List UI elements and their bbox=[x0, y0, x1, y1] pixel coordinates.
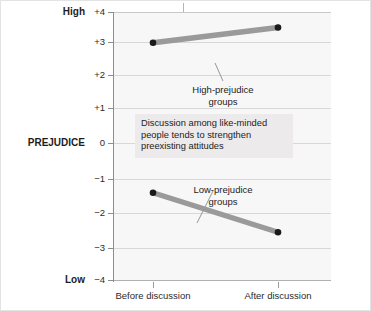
datapoint-high-after bbox=[275, 24, 282, 31]
leader-line-high bbox=[215, 63, 223, 81]
callout-line-1: Discussion among like-minded bbox=[141, 118, 287, 130]
series-label-high-line2: groups bbox=[208, 96, 237, 107]
series-label-low-line2: groups bbox=[208, 196, 237, 207]
figure-card: High+4 +3 +2 +1 PREJUDICE0 −1 −2 −3 Low−… bbox=[0, 0, 371, 311]
series-label-high-prejudice: High-prejudice groups bbox=[177, 84, 269, 107]
series-label-low-prejudice: Low-prejudice groups bbox=[179, 184, 267, 207]
series-label-low-line1: Low-prejudice bbox=[193, 184, 252, 195]
datapoint-low-before bbox=[150, 189, 157, 196]
datapoint-high-before bbox=[150, 39, 157, 46]
callout-line-2: people tends to strengthen bbox=[141, 130, 287, 142]
callout-annotation: Discussion among like-minded people tend… bbox=[135, 114, 293, 158]
callout-line-3: preexisting attitudes bbox=[141, 141, 287, 153]
line-chart: High+4 +3 +2 +1 PREJUDICE0 −1 −2 −3 Low−… bbox=[1, 1, 371, 311]
series-line-high-prejudice bbox=[153, 28, 278, 43]
series-label-high-line1: High-prejudice bbox=[192, 84, 253, 95]
datapoint-low-after bbox=[275, 229, 282, 236]
clipped-caption bbox=[1, 304, 371, 311]
